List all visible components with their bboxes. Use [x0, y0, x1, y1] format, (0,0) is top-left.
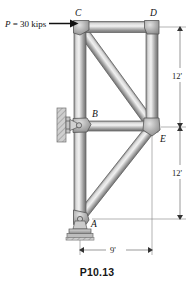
load-label-value: = 30 kips: [11, 19, 47, 29]
joint-d: [145, 21, 160, 35]
joint-label-d: D: [149, 8, 157, 18]
member-a-e: [75, 122, 158, 223]
load-label: P = 30 kips: [4, 19, 47, 29]
member-c-e: [75, 22, 158, 131]
dimension-label-horizontal-9: 9': [110, 245, 116, 255]
dimension-lower-12: 12': [171, 126, 189, 220]
dimension-upper-12: 12': [171, 26, 189, 128]
figure-caption: P10.13: [0, 266, 194, 278]
joint-label-a: A: [90, 219, 97, 229]
joint-label-b: B: [92, 109, 98, 119]
dimension-label-lower-12: 12': [172, 168, 183, 178]
member-d-e: [146, 22, 158, 132]
joint-label-e: E: [159, 134, 166, 144]
joint-label-c: C: [75, 8, 82, 18]
pin-support-a: [66, 216, 94, 240]
truss-figure: P = 30 kips C D B E A 12' 12' 9': [0, 0, 194, 288]
dimension-label-upper-12: 12': [172, 71, 183, 81]
